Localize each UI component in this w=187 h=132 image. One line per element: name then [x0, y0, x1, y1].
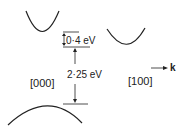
- conduction-band-gamma: [26, 11, 59, 32]
- band-diagram: 0·4 eV 2·25 eV [000] [100] k: [0, 0, 187, 132]
- main-gap-label: 2·25 eV: [67, 70, 102, 80]
- x-point-label: [100]: [128, 76, 152, 86]
- conduction-band-x: [107, 28, 145, 44]
- k-axis-label: k: [170, 63, 176, 73]
- band-curves: [0, 0, 187, 132]
- gamma-point-label: [000]: [30, 78, 54, 88]
- small-gap-label: 0·4 eV: [66, 36, 95, 46]
- valence-band: [8, 106, 82, 125]
